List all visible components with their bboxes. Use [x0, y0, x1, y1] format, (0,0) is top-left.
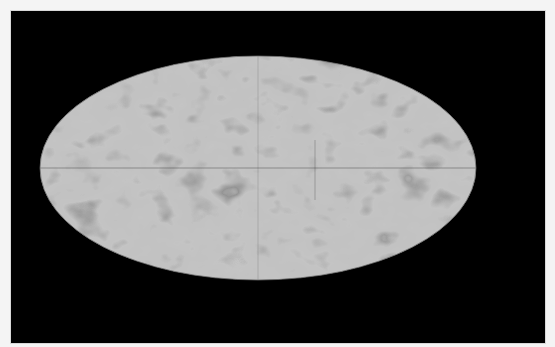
map-texture — [40, 56, 477, 280]
sky-map — [0, 0, 555, 347]
